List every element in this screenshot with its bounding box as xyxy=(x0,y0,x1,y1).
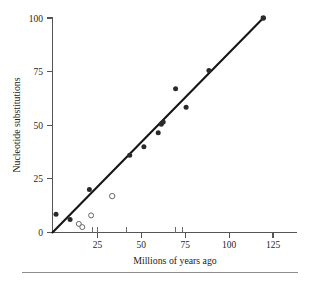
figure-container: 0 25 50 75 100 25 50 75 100 125 xyxy=(0,0,319,284)
x-tick-label-100: 100 xyxy=(222,240,237,250)
x-tick-label-25: 25 xyxy=(93,240,103,250)
data-point-filled xyxy=(127,153,132,158)
x-tick-label-125: 125 xyxy=(266,240,281,250)
x-axis-title: Millions of years ago xyxy=(133,255,217,266)
data-point-filled xyxy=(261,15,266,20)
y-tick-marks xyxy=(47,18,53,233)
data-point-filled xyxy=(141,144,146,149)
y-tick-label-100: 100 xyxy=(29,14,44,24)
y-tick-labels: 0 25 50 75 100 xyxy=(29,14,44,239)
x-tick-labels: 25 50 75 100 125 xyxy=(93,240,281,250)
data-point-filled xyxy=(87,187,92,192)
open-data-points xyxy=(76,193,115,229)
y-tick-label-75: 75 xyxy=(34,67,44,77)
regression-trend-line xyxy=(53,18,264,233)
data-point-open xyxy=(80,225,85,230)
data-point-filled xyxy=(206,68,211,73)
data-point-filled xyxy=(68,217,73,222)
data-point-open xyxy=(110,193,115,198)
data-point-filled xyxy=(161,120,166,125)
footer-divider-rule xyxy=(22,272,298,273)
data-point-filled xyxy=(54,212,59,217)
x-tick-label-50: 50 xyxy=(137,240,147,250)
y-tick-label-50: 50 xyxy=(34,121,44,131)
x-tick-label-75: 75 xyxy=(180,240,190,250)
axes-group xyxy=(53,18,298,233)
data-point-open xyxy=(89,213,94,218)
data-point-filled xyxy=(184,105,189,110)
data-point-filled xyxy=(173,86,178,91)
y-axis-title: Nucleotide substitutions xyxy=(11,77,22,172)
x-tick-marks xyxy=(97,233,273,239)
y-tick-label-25: 25 xyxy=(34,174,44,184)
data-point-filled xyxy=(156,130,161,135)
y-tick-label-0: 0 xyxy=(38,228,43,238)
x-minor-tick-marks xyxy=(93,227,183,233)
scatter-plot: 0 25 50 75 100 25 50 75 100 125 xyxy=(0,0,319,284)
